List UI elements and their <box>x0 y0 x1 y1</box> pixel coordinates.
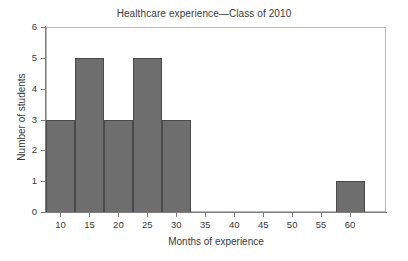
histogram-bar <box>104 120 133 213</box>
chart-title: Healthcare experience—Class of 2010 <box>0 8 408 20</box>
x-axis-tick-label: 15 <box>74 219 104 230</box>
y-axis-tick <box>41 181 45 182</box>
y-axis-tick <box>41 150 45 151</box>
histogram-bar <box>336 181 365 212</box>
y-axis-tick <box>41 27 45 28</box>
x-axis-tick <box>60 213 61 217</box>
histogram-bar <box>75 58 104 212</box>
histogram-bar <box>46 120 75 213</box>
x-axis-line <box>45 212 387 213</box>
y-axis-title: Number of students <box>16 17 28 217</box>
bars-layer <box>46 27 386 212</box>
x-axis-tick <box>292 213 293 217</box>
x-axis-tick <box>118 213 119 217</box>
x-axis-tick-label: 55 <box>306 219 336 230</box>
y-axis-tick <box>41 58 45 59</box>
histogram-bar <box>133 58 162 212</box>
x-axis-tick-label: 60 <box>335 219 365 230</box>
x-axis-tick-label: 40 <box>219 219 249 230</box>
x-axis-tick <box>321 213 322 217</box>
x-axis-title: Months of experience <box>46 236 386 248</box>
x-axis-tick-label: 10 <box>45 219 75 230</box>
y-axis-tick <box>41 89 45 90</box>
x-axis-tick <box>147 213 148 217</box>
y-axis-tick <box>41 120 45 121</box>
x-axis-tick <box>89 213 90 217</box>
histogram-bar <box>162 120 191 213</box>
x-axis-tick-label: 30 <box>161 219 191 230</box>
y-axis-line <box>45 26 46 213</box>
x-axis-tick <box>234 213 235 217</box>
x-axis-tick <box>176 213 177 217</box>
y-axis-tick <box>41 212 45 213</box>
x-axis-tick-label: 20 <box>103 219 133 230</box>
x-axis-tick <box>205 213 206 217</box>
x-axis-tick-label: 50 <box>277 219 307 230</box>
x-axis-tick <box>350 213 351 217</box>
x-axis-tick-label: 35 <box>190 219 220 230</box>
x-axis-tick-label: 45 <box>248 219 278 230</box>
x-axis-tick <box>263 213 264 217</box>
histogram-figure: Healthcare experience—Class of 2010 0123… <box>0 0 408 261</box>
x-axis-tick-label: 25 <box>132 219 162 230</box>
